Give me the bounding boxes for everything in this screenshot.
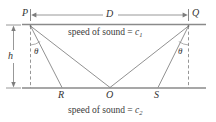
annotation-speed-lower: speed of sound = c2: [68, 106, 143, 116]
label-point-s: S: [154, 90, 159, 100]
vertex-dot-p: [30, 25, 32, 27]
annotation-speed-lower-sub: 2: [139, 109, 142, 116]
annotation-speed-upper-sub: 1: [139, 31, 142, 38]
label-angle-theta-left: θ: [34, 47, 38, 56]
ray-p-to-r: [31, 26, 63, 88]
label-point-r: R: [58, 90, 64, 100]
dimension-arrowhead-right: [183, 13, 188, 18]
h-arrowhead-top: [11, 26, 15, 31]
ray-q-to-s: [158, 26, 189, 88]
label-distance-d: D: [106, 9, 113, 19]
seismic-refraction-diagram: P Q D h θ θ R O S speed of sound = c1 sp…: [0, 0, 216, 122]
annotation-speed-upper: speed of sound = c1: [68, 28, 143, 38]
label-depth-h: h: [8, 51, 13, 61]
label-point-o: O: [106, 90, 113, 100]
annotation-speed-lower-prefix: speed of sound =: [68, 105, 135, 115]
annotation-speed-upper-prefix: speed of sound =: [68, 27, 135, 37]
label-angle-theta-right: θ: [178, 47, 182, 56]
label-point-p: P: [22, 8, 28, 18]
vertex-dot-q: [188, 25, 190, 27]
h-arrowhead-bottom: [11, 82, 15, 87]
dimension-arrowhead-left: [31, 13, 36, 18]
label-point-q: Q: [192, 8, 199, 18]
